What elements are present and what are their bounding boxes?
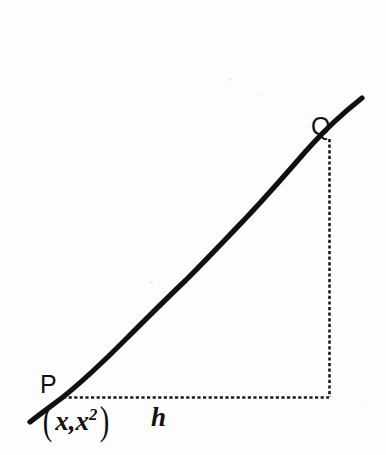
coordinate-open-paren: (: [43, 404, 53, 438]
point-label-p: P: [40, 372, 57, 397]
figure-canvas: P Q ( x,x2 ) h: [0, 0, 386, 455]
coordinate-close-paren: ): [100, 404, 110, 438]
point-p-coordinates-label: ( x,x2 ): [41, 404, 112, 438]
coordinate-x: x,: [55, 406, 75, 436]
run-length-label-h: h: [151, 404, 166, 431]
parabola-curve: [30, 98, 362, 422]
coordinate-values: x,x2: [54, 408, 98, 435]
coordinate-x-squared-exponent: 2: [89, 405, 97, 424]
coordinate-x-squared-base: x: [76, 406, 90, 436]
parabola-diagram-svg: [0, 0, 386, 455]
point-label-q: Q: [311, 114, 330, 139]
